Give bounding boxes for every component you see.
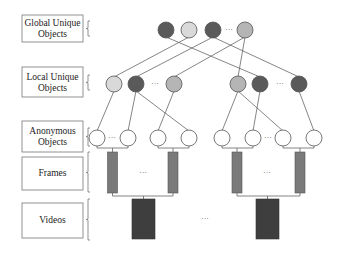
global-local-edge <box>166 37 260 77</box>
hierarchy-diagram: Global Unique Objects Local Unique Objec… <box>0 0 338 254</box>
global-local-edge <box>136 37 213 77</box>
level-label-videos: Videos <box>22 203 83 238</box>
frame-video-connector <box>237 193 300 196</box>
brace <box>86 75 90 90</box>
local-unique-object-node <box>291 76 307 92</box>
local-unique-object-node <box>128 76 144 92</box>
label-line: Local Unique <box>27 72 79 82</box>
local-unique-object-node <box>252 76 268 92</box>
ellipsis: ··· <box>225 25 233 34</box>
local-anonymous-edge <box>136 91 189 131</box>
level-label-anonymous: Anonymous Objects <box>22 121 83 152</box>
anonymous-frame-connector <box>158 146 189 148</box>
local-anonymous-edge <box>299 91 314 131</box>
ellipsis: ··· <box>108 133 116 142</box>
local-anonymous-edge <box>128 91 136 131</box>
label-line: Global Unique <box>24 18 80 28</box>
brace <box>86 152 90 192</box>
anonymous-object-node <box>89 130 105 146</box>
level-label-global: Global Unique Objects <box>22 15 83 42</box>
level-label-frames: Frames <box>22 157 83 190</box>
ellipsis: ··· <box>264 133 272 142</box>
local-anonymous-edge <box>97 91 114 131</box>
anonymous-object-node <box>214 130 230 146</box>
video-rect <box>132 199 155 239</box>
global-unique-object-node <box>181 22 197 38</box>
local-unique-object-node <box>230 76 246 92</box>
ellipsis: ··· <box>139 168 147 177</box>
local-anonymous-edge <box>158 91 174 131</box>
video-rect <box>256 199 279 239</box>
global-local-edge <box>213 37 299 77</box>
edges <box>97 37 314 199</box>
global-local-edge <box>114 37 189 77</box>
brace <box>86 199 90 240</box>
frame-rect <box>232 152 242 193</box>
global-unique-object-node <box>158 22 174 38</box>
ellipsis: ··· <box>263 168 271 177</box>
local-unique-object-node <box>106 76 122 92</box>
anonymous-frame-connector <box>222 146 253 148</box>
level-label-local: Local Unique Objects <box>22 67 83 97</box>
label-line: Objects <box>38 137 67 147</box>
label-line: Anonymous <box>29 126 76 136</box>
anonymous-object-node <box>150 130 166 146</box>
ellipsis: ··· <box>276 79 284 88</box>
local-unique-object-node <box>166 76 182 92</box>
brace <box>86 21 90 36</box>
label-line: Videos <box>39 215 66 225</box>
local-anonymous-edge <box>238 91 283 131</box>
global-local-edge <box>174 37 245 77</box>
local-anonymous-edge <box>222 91 238 131</box>
anonymous-frame-connector <box>283 146 314 148</box>
anonymous-object-node <box>275 130 291 146</box>
anonymous-object-node <box>120 130 136 146</box>
nodes: ························ <box>89 22 322 239</box>
ellipsis: ··· <box>151 79 159 88</box>
global-unique-object-node <box>237 22 253 38</box>
global-local-edge <box>238 37 245 77</box>
label-line: Objects <box>38 83 67 93</box>
frame-rect <box>295 152 305 193</box>
anonymous-object-node <box>306 130 322 146</box>
frame-rect <box>108 152 118 193</box>
frame-rect <box>168 152 178 193</box>
frame-video-connector <box>113 193 174 196</box>
anonymous-frame-connector <box>97 146 128 148</box>
ellipsis: ··· <box>201 214 209 223</box>
label-line: Frames <box>39 168 67 178</box>
label-line: Objects <box>38 29 67 39</box>
global-unique-object-node <box>205 22 221 38</box>
local-anonymous-edge <box>253 91 260 131</box>
anonymous-object-node <box>181 130 197 146</box>
anonymous-object-node <box>245 130 261 146</box>
